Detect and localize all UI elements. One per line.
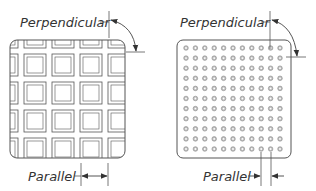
dot-center bbox=[213, 138, 215, 140]
dot-center bbox=[185, 47, 187, 49]
grid-tile-outer bbox=[108, 82, 130, 104]
dot-center bbox=[260, 128, 262, 130]
dot-center bbox=[242, 128, 244, 130]
grid-tile-inner bbox=[0, 113, 15, 129]
grid-tile-inner bbox=[55, 57, 71, 73]
dot-center bbox=[213, 118, 215, 120]
dot-center bbox=[232, 128, 234, 130]
dot-center bbox=[279, 148, 281, 150]
dot-center bbox=[279, 108, 281, 110]
grid-tile-inner bbox=[0, 141, 15, 157]
grid-tile-inner bbox=[0, 85, 15, 101]
grid-tile-outer bbox=[80, 166, 102, 188]
dot-center bbox=[223, 77, 225, 79]
grid-tile-outer bbox=[80, 138, 102, 160]
grid-tile-inner bbox=[0, 169, 15, 185]
grid-tile-inner bbox=[55, 141, 71, 157]
dot-center bbox=[204, 98, 206, 100]
dot-center bbox=[204, 128, 206, 130]
dot-center bbox=[242, 77, 244, 79]
dot-center bbox=[213, 128, 215, 130]
dot-center bbox=[279, 57, 281, 59]
dot-center bbox=[232, 138, 234, 140]
grid-tile-outer bbox=[80, 82, 102, 104]
dot-center bbox=[213, 57, 215, 59]
dot-center bbox=[204, 77, 206, 79]
grid-tile-outer bbox=[136, 26, 158, 48]
dot-center bbox=[251, 108, 253, 110]
dot-center bbox=[251, 128, 253, 130]
dot-center bbox=[232, 67, 234, 69]
dot-center bbox=[195, 138, 197, 140]
right-perpendicular-curved-arrow-icon bbox=[272, 20, 297, 56]
dot-center bbox=[270, 138, 272, 140]
left-perpendicular-curved-arrow-icon bbox=[111, 20, 136, 51]
grid-tile-inner bbox=[27, 85, 43, 101]
grid-tile-inner bbox=[55, 29, 71, 45]
dot-center bbox=[195, 88, 197, 90]
grid-tile-inner bbox=[139, 57, 155, 73]
dot-center bbox=[270, 108, 272, 110]
dot-center bbox=[223, 138, 225, 140]
left-parallel-label: Parallel bbox=[28, 169, 76, 184]
dot-center bbox=[270, 88, 272, 90]
dot-center bbox=[204, 57, 206, 59]
dot-center bbox=[279, 128, 281, 130]
dot-center bbox=[232, 88, 234, 90]
grid-tile-outer bbox=[136, 138, 158, 160]
dot-center bbox=[270, 57, 272, 59]
dot-center bbox=[185, 77, 187, 79]
grid-tile-inner bbox=[139, 29, 155, 45]
grid-tile-outer bbox=[108, 110, 130, 132]
dot-center bbox=[242, 47, 244, 49]
dot-center bbox=[251, 67, 253, 69]
dot-center bbox=[204, 47, 206, 49]
dot-center bbox=[204, 148, 206, 150]
grid-tile-inner bbox=[27, 113, 43, 129]
dot-center bbox=[213, 108, 215, 110]
dot-center bbox=[242, 148, 244, 150]
dot-center bbox=[195, 148, 197, 150]
dot-center bbox=[223, 148, 225, 150]
dot-center bbox=[185, 98, 187, 100]
dot-center bbox=[260, 57, 262, 59]
dot-center bbox=[195, 57, 197, 59]
grid-tile-inner bbox=[139, 169, 155, 185]
diagram-canvas: Perpendicular Parallel Perpendicular Par… bbox=[0, 0, 316, 191]
dot-center bbox=[204, 88, 206, 90]
grid-tile-inner bbox=[27, 57, 43, 73]
dot-center bbox=[223, 118, 225, 120]
grid-tile-inner bbox=[139, 141, 155, 157]
grid-tile-inner bbox=[83, 57, 99, 73]
dot-center bbox=[195, 128, 197, 130]
dot-center bbox=[260, 138, 262, 140]
dot-center bbox=[223, 108, 225, 110]
dot-center bbox=[185, 88, 187, 90]
dot-center bbox=[260, 108, 262, 110]
grid-tile-inner bbox=[83, 85, 99, 101]
dot-center bbox=[260, 148, 262, 150]
grid-tile-inner bbox=[83, 29, 99, 45]
dot-center bbox=[251, 138, 253, 140]
dot-center bbox=[251, 148, 253, 150]
dot-center bbox=[204, 108, 206, 110]
dot-center bbox=[232, 57, 234, 59]
dot-center bbox=[204, 138, 206, 140]
dot-center bbox=[213, 47, 215, 49]
dot-center bbox=[195, 118, 197, 120]
dot-center bbox=[195, 47, 197, 49]
dot-center bbox=[213, 77, 215, 79]
dot-center bbox=[251, 118, 253, 120]
grid-tile-outer bbox=[136, 166, 158, 188]
left-perpendicular-label: Perpendicular bbox=[20, 15, 112, 30]
dot-center bbox=[260, 67, 262, 69]
dot-center bbox=[195, 77, 197, 79]
dot-center bbox=[260, 77, 262, 79]
right-perpendicular-label: Perpendicular bbox=[180, 15, 272, 30]
grid-tile-inner bbox=[111, 169, 127, 185]
dot-center bbox=[260, 118, 262, 120]
right-panel: Perpendicular Parallel bbox=[177, 11, 306, 186]
dot-center bbox=[260, 98, 262, 100]
grid-tile-inner bbox=[27, 141, 43, 157]
grid-tile-inner bbox=[0, 57, 15, 73]
